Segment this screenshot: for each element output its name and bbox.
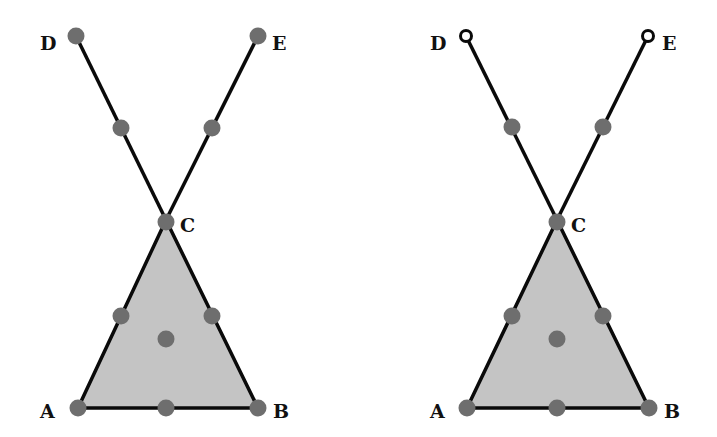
triangle-face bbox=[467, 220, 649, 408]
node-ce-mid bbox=[595, 119, 612, 136]
node-e-open bbox=[643, 31, 654, 42]
node-d bbox=[68, 28, 85, 45]
right-diagram: D E C A B bbox=[429, 31, 680, 423]
label-d: D bbox=[430, 32, 446, 54]
node-d-open bbox=[461, 31, 472, 42]
label-d: D bbox=[40, 32, 56, 54]
label-c: C bbox=[571, 214, 586, 236]
label-e: E bbox=[272, 32, 286, 54]
node-b bbox=[641, 400, 658, 417]
label-a: A bbox=[39, 400, 55, 422]
node-cd-mid bbox=[504, 119, 521, 136]
node-c bbox=[158, 214, 175, 231]
node-ab-mid bbox=[549, 400, 566, 417]
node-ac-mid bbox=[113, 308, 130, 325]
label-e: E bbox=[662, 32, 676, 54]
label-c: C bbox=[180, 214, 195, 236]
node-c bbox=[549, 214, 566, 231]
node-cd-mid bbox=[113, 120, 130, 137]
node-b bbox=[250, 400, 267, 417]
node-bc-mid bbox=[204, 308, 221, 325]
node-ce-mid bbox=[204, 120, 221, 137]
left-diagram: D E C A B bbox=[39, 28, 289, 423]
triangle-face bbox=[78, 220, 258, 408]
node-center bbox=[549, 331, 566, 348]
node-e bbox=[250, 28, 267, 45]
node-ac-mid bbox=[504, 308, 521, 325]
node-bc-mid bbox=[595, 308, 612, 325]
node-a bbox=[70, 400, 87, 417]
node-center bbox=[158, 331, 175, 348]
label-a: A bbox=[429, 400, 445, 422]
node-ab-mid bbox=[158, 400, 175, 417]
diagram-canvas: D E C A B D E C A B bbox=[0, 0, 717, 437]
label-b: B bbox=[273, 400, 289, 422]
label-b: B bbox=[664, 400, 680, 422]
node-a bbox=[459, 400, 476, 417]
